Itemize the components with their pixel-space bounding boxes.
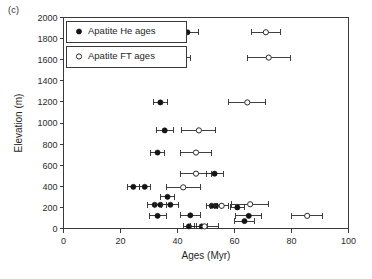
- legend-label-0: Apatite He ages: [88, 25, 156, 36]
- y-tick-label: 1800: [37, 34, 57, 44]
- data-point-he: [246, 213, 251, 218]
- data-point-ft: [193, 171, 198, 176]
- data-point-he: [155, 150, 160, 155]
- figure-panel-c: (c) 020040060080010001200140016001800200…: [0, 0, 372, 279]
- scatter-plot: 0200400600800100012001400160018002000020…: [0, 0, 372, 279]
- data-point-ft: [305, 213, 310, 218]
- y-tick-label: 1000: [37, 118, 57, 128]
- x-tick-label: 40: [172, 236, 182, 246]
- data-point-he: [212, 171, 217, 176]
- data-point-he: [155, 213, 160, 218]
- data-point-ft: [248, 202, 253, 207]
- data-point-he: [162, 128, 167, 133]
- data-point-he: [131, 184, 136, 189]
- y-tick-label: 1200: [37, 97, 57, 107]
- y-tick-label: 600: [42, 161, 57, 171]
- legend-label-1: Apatite FT ages: [88, 50, 155, 61]
- y-tick-label: 1600: [37, 55, 57, 65]
- data-point-ft: [202, 224, 207, 229]
- data-point-ft: [245, 100, 250, 105]
- data-point-ft: [266, 55, 271, 60]
- data-point-he: [235, 205, 240, 210]
- data-point-he: [158, 100, 163, 105]
- x-tick-label: 60: [229, 236, 239, 246]
- series-ft: [166, 29, 323, 229]
- x-tick-label: 80: [286, 236, 296, 246]
- data-point-he: [142, 184, 147, 189]
- y-tick-label: 0: [52, 224, 57, 234]
- data-point-ft: [196, 128, 201, 133]
- data-point-he: [168, 202, 173, 207]
- legend-marker-he: [76, 29, 81, 34]
- x-tick-label: 100: [341, 236, 356, 246]
- data-point-ft: [181, 185, 186, 190]
- y-axis-title: Elevation (m): [13, 94, 24, 153]
- data-point-ft: [219, 203, 224, 208]
- x-tick-label: 0: [61, 236, 66, 246]
- legend-marker-ft: [76, 54, 81, 59]
- x-tick-label: 20: [115, 236, 125, 246]
- y-tick-label: 400: [42, 182, 57, 192]
- data-point-he: [242, 219, 247, 224]
- data-point-ft: [193, 150, 198, 155]
- y-tick-label: 2000: [37, 13, 57, 23]
- legend: Apatite He agesApatite FT ages: [66, 21, 186, 67]
- y-tick-label: 200: [42, 203, 57, 213]
- x-axis-title: Ages (Myr): [182, 250, 231, 261]
- y-tick-label: 1400: [37, 76, 57, 86]
- y-tick-label: 800: [42, 140, 57, 150]
- data-point-he: [188, 213, 193, 218]
- data-point-he: [165, 194, 170, 199]
- data-point-ft: [263, 30, 268, 35]
